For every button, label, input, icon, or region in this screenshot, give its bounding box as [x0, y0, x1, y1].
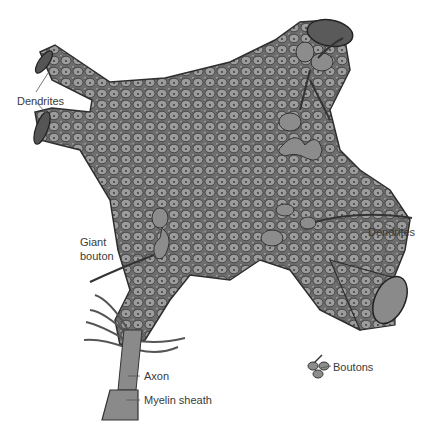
label-myelin-sheath: Myelin sheath [144, 394, 212, 406]
label-boutons: Boutons [333, 361, 373, 373]
boutons-group [308, 355, 329, 378]
label-giant-bouton-line2: bouton [80, 250, 114, 262]
label-dendrites-right: Dendrites [368, 226, 415, 238]
neuron-illustration [0, 0, 441, 432]
label-axon: Axon [144, 370, 169, 382]
label-giant-bouton-line1: Giant [80, 236, 106, 248]
myelin-sheath [102, 390, 138, 420]
label-dendrites-top-left: Dendrites [17, 95, 64, 107]
